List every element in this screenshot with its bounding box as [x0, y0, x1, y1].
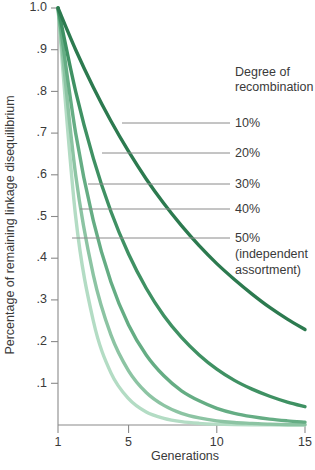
legend-label-40pct: 40%	[235, 202, 260, 216]
x-tick-label: 1	[55, 435, 62, 449]
y-tick-label: .3	[37, 292, 47, 306]
y-tick-label: .9	[37, 42, 47, 56]
y-tick-label: .5	[37, 209, 47, 223]
legend-labels: 10%20%30%40%50%(independentassortment)	[235, 116, 309, 277]
y-axis-title: Percentage of remaining linkage disequil…	[3, 95, 17, 354]
legend-label-20pct: 20%	[235, 146, 260, 160]
y-tick-label: .2	[37, 334, 47, 348]
y-tick-label: 1.0	[30, 0, 47, 14]
legend-label-30pct: 30%	[235, 177, 260, 191]
x-axis-title: Generations	[151, 449, 219, 463]
x-axis-ticks: 151015	[55, 425, 312, 449]
legend-title-line1: Degree of	[235, 65, 290, 79]
linkage-disequilibrium-decay-chart: Percentage of remaining linkage disequil…	[0, 0, 315, 470]
y-axis-ticks: 1.0.9.8.7.6.5.4.3.2.1	[30, 0, 58, 389]
y-tick-label: .4	[37, 250, 47, 264]
y-tick-label: .6	[37, 167, 47, 181]
y-tick-label: .8	[37, 84, 47, 98]
x-tick-label: 10	[210, 435, 224, 449]
legend-sublabel-line2: assortment)	[235, 263, 301, 277]
x-tick-label: 5	[125, 435, 132, 449]
y-tick-label: .1	[37, 376, 47, 390]
chart-figure: Percentage of remaining linkage disequil…	[0, 0, 315, 470]
legend-label-10pct: 10%	[235, 116, 260, 130]
x-tick-label: 15	[298, 435, 312, 449]
legend-label-50pct: 50%	[235, 231, 260, 245]
legend-leader-lines	[72, 123, 230, 238]
legend-sublabel-line1: (independent	[235, 247, 309, 261]
y-tick-label: .7	[37, 125, 47, 139]
legend-title-line2: recombination	[235, 80, 314, 94]
